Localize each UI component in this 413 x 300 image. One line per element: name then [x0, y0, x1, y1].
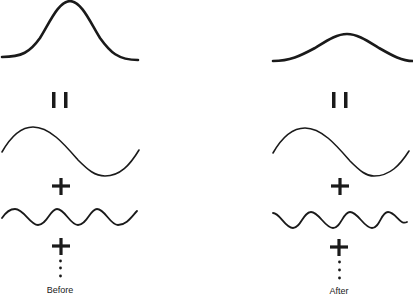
after-high-frequency-wave: [273, 212, 407, 228]
before-label: Before: [30, 285, 90, 295]
before-ellipsis-icon: [59, 260, 62, 278]
after-equals-icon: [332, 92, 336, 108]
before-equals-icon: [64, 92, 68, 108]
before-low-frequency-wave: [2, 127, 139, 176]
before-high-frequency-wave: [2, 209, 137, 225]
before-gaussian-pulse: [2, 1, 138, 60]
diagram-svg: [0, 0, 413, 300]
before-equals-icon: [52, 92, 56, 108]
before-plus-icon: [52, 238, 70, 255]
after-label: After: [309, 286, 369, 296]
after-ellipsis-icon: [338, 261, 341, 280]
after-gaussian-pulse: [273, 34, 413, 61]
after-plus-icon: [330, 239, 348, 256]
diagram-canvas: Before After: [0, 0, 413, 300]
after-plus-icon: [331, 178, 349, 195]
after-equals-icon: [344, 92, 348, 108]
before-plus-icon: [52, 178, 70, 195]
after-low-frequency-wave: [273, 128, 409, 176]
